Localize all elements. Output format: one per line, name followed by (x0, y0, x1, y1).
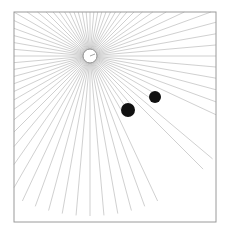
light-ray (95, 12, 134, 51)
light-rays (14, 12, 216, 216)
light-ray (14, 59, 84, 91)
light-ray (14, 49, 83, 55)
light-ray (97, 45, 216, 55)
light-ray (62, 63, 89, 214)
light-ray (76, 63, 89, 215)
occluder-circle-1[interactable] (121, 103, 135, 117)
ray-casting-scene (0, 0, 229, 232)
light-ray (14, 36, 83, 55)
light-ray (27, 12, 84, 52)
light-ray (14, 62, 87, 188)
light-ray (91, 63, 118, 214)
occluder-circle-2[interactable] (149, 91, 161, 103)
light-ray (14, 61, 85, 132)
light-ray (96, 12, 153, 52)
light-ray (94, 12, 126, 51)
light-ray (59, 12, 86, 50)
light-ray (91, 63, 104, 215)
light-ray (94, 62, 124, 105)
light-ray (14, 62, 86, 165)
light-ray (14, 43, 83, 55)
light-ray (96, 59, 216, 115)
light-ray (46, 12, 85, 51)
light-ray (49, 63, 89, 211)
light-ray (96, 60, 149, 97)
occluders (121, 91, 161, 117)
light-ray (95, 60, 212, 158)
light-ray (94, 12, 121, 50)
light-ray (14, 58, 83, 77)
light-ray (53, 12, 85, 51)
light-ray (14, 57, 83, 69)
light-ray (14, 21, 84, 53)
light-ray (97, 57, 216, 67)
light-ray (14, 61, 86, 146)
light-ray (92, 63, 132, 211)
light-ray (14, 57, 83, 63)
light-ray (97, 12, 211, 54)
